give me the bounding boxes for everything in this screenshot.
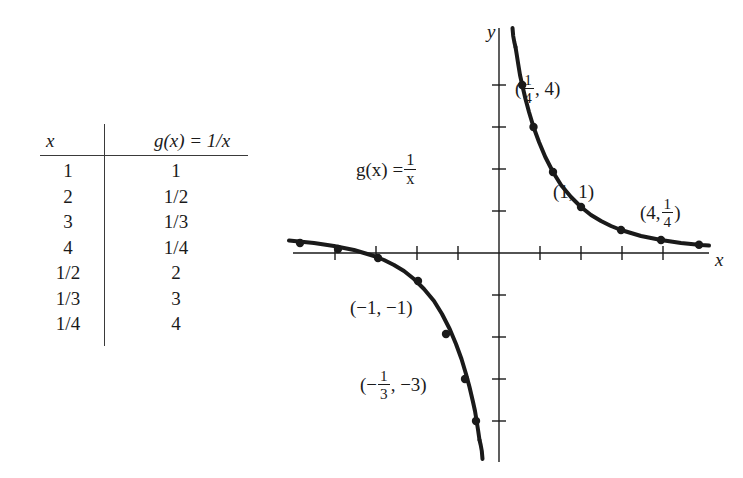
cell-gx: 1/3 <box>112 209 240 235</box>
hyperbola-graph: y x g(x) =1x (14, 4) (1, 1) (4,14) (−1, … <box>285 0 743 478</box>
table-row: 4 1/4 <box>40 235 248 261</box>
fraction-denominator: 3 <box>378 386 390 402</box>
table-row: 2 1/2 <box>40 184 248 210</box>
data-point-negthree-negthird <box>334 245 342 253</box>
table-row: 1 1 <box>40 158 248 184</box>
label-tail: , −3 <box>391 374 421 395</box>
fraction-denominator: 4 <box>522 90 534 106</box>
paren-close: ) <box>674 202 680 223</box>
fraction-numerator: 1 <box>522 72 534 88</box>
cell-x: 4 <box>40 235 96 261</box>
cell-gx: 1 <box>112 158 240 184</box>
fraction-denominator: 4 <box>662 214 674 230</box>
data-point-third-three <box>529 123 537 131</box>
label-four-quarter: (4,14) <box>640 196 681 229</box>
cell-gx: 3 <box>112 286 240 312</box>
curve-negative-asymptote-stem <box>480 440 483 459</box>
cell-gx: 1/4 <box>112 235 240 261</box>
data-point-negfour-negquarter <box>296 239 304 247</box>
data-point-negquarter-negfour <box>472 417 480 425</box>
function-equation-label: g(x) =1x <box>356 152 417 187</box>
data-point-three-third <box>657 236 665 244</box>
graph-canvas <box>285 0 743 478</box>
cell-gx: 4 <box>112 311 240 337</box>
label-quarter-four: (14, 4) <box>515 72 560 105</box>
fraction-numerator: 1 <box>404 152 416 169</box>
data-point-four-quarter <box>695 241 703 249</box>
label-one-one: (1, 1) <box>553 182 594 201</box>
paren-open: (− <box>360 374 377 395</box>
axes-group <box>293 28 709 462</box>
fraction-one-third: 13 <box>378 368 390 401</box>
cell-x: 1/4 <box>40 311 96 337</box>
label-tail: , 4 <box>535 78 554 99</box>
cell-x: 1/2 <box>40 260 96 286</box>
data-point-one-one <box>577 203 585 211</box>
fraction-one-quarter: 14 <box>662 196 674 229</box>
table-body: 1 1 2 1/2 3 1/3 4 1/4 1/2 2 1/3 3 <box>40 158 248 337</box>
fraction-numerator: 1 <box>378 368 390 384</box>
figure-root: x g(x) = 1/x 1 1 2 1/2 3 1/3 4 1/4 1 <box>0 0 743 478</box>
data-point-negtwo-neghalf <box>374 254 382 262</box>
data-point-negthird-negthree <box>461 375 469 383</box>
x-axis-label: x <box>715 250 723 269</box>
cell-gx: 1/2 <box>112 184 240 210</box>
label-neg-one-neg-one: (−1, −1) <box>350 298 413 317</box>
fraction-one-over-x: 1x <box>404 152 416 187</box>
paren-open: (4, <box>640 202 661 223</box>
cell-x: 2 <box>40 184 96 210</box>
cell-x: 1 <box>40 158 96 184</box>
fraction-numerator: 1 <box>662 196 674 212</box>
table-header-row: x g(x) = 1/x <box>40 124 250 154</box>
data-point-half-two <box>549 168 557 176</box>
paren-open: ( <box>515 78 521 99</box>
paren-close: ) <box>420 374 426 395</box>
function-value-table: x g(x) = 1/x 1 1 2 1/2 3 1/3 4 1/4 1 <box>40 124 250 154</box>
cell-gx: 2 <box>112 260 240 286</box>
table-header-gx: g(x) = 1/x <box>132 130 252 152</box>
table-row: 1/2 2 <box>40 260 248 286</box>
table-row: 1/3 3 <box>40 286 248 312</box>
fraction-one-quarter: 14 <box>522 72 534 105</box>
curve-positive-asymptote-stem <box>513 28 516 47</box>
data-point-negone-negone <box>414 277 422 285</box>
paren-close: ) <box>554 78 560 99</box>
y-axis-label: y <box>487 22 495 41</box>
curve-negative-branch <box>289 241 480 440</box>
cell-x: 1/3 <box>40 286 96 312</box>
data-point-two-half <box>617 226 625 234</box>
cell-x: 3 <box>40 209 96 235</box>
function-equation-prefix: g(x) = <box>356 159 403 180</box>
table-header-x: x <box>46 130 54 152</box>
table-row: 1/4 4 <box>40 311 248 337</box>
table-row: 3 1/3 <box>40 209 248 235</box>
fraction-denominator: x <box>404 171 416 188</box>
data-point-neghalf-negtwo <box>442 330 450 338</box>
table-horizontal-rule <box>40 155 248 156</box>
label-neg-third-neg-three: (−13, −3) <box>360 368 427 401</box>
